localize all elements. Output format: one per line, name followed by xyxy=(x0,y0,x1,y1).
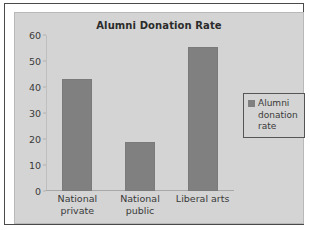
category-label-line: National xyxy=(109,193,172,205)
chart-figure-frame: Alumni Donation Rate 0102030405060 Natio… xyxy=(4,3,304,225)
bar-1 xyxy=(125,142,155,191)
y-axis-tick-label: 40 xyxy=(15,82,41,93)
category-label-line: National xyxy=(46,193,109,205)
y-axis-tick-label: 0 xyxy=(15,186,41,197)
bar-series xyxy=(46,35,234,191)
bar-0 xyxy=(62,79,92,191)
legend-label-line: Alumni xyxy=(258,98,298,110)
legend-label-line: donation xyxy=(258,110,298,122)
x-axis-category-label-1: Nationalpublic xyxy=(109,193,172,216)
y-axis-tick-label: 10 xyxy=(15,160,41,171)
category-label-line: public xyxy=(109,205,172,217)
y-axis-tick-label: 60 xyxy=(15,30,41,41)
y-axis-tick-label: 30 xyxy=(15,108,41,119)
x-axis-category-label-2: Liberal arts xyxy=(171,193,234,205)
chart-title: Alumni Donation Rate xyxy=(15,20,303,31)
x-axis-category-labels: NationalprivateNationalpublicLiberal art… xyxy=(46,193,234,227)
chart-plot-canvas: Alumni Donation Rate 0102030405060 Natio… xyxy=(14,12,304,224)
legend-swatch-alumni-donation-rate xyxy=(248,100,255,107)
category-label-line: private xyxy=(46,205,109,217)
bar-2 xyxy=(188,47,218,191)
plot-region: 0102030405060 xyxy=(46,35,234,191)
category-label-line: Liberal arts xyxy=(171,193,234,205)
chart-legend: Alumnidonationrate xyxy=(243,93,305,138)
x-axis-category-label-0: Nationalprivate xyxy=(46,193,109,216)
y-axis-tick-label: 50 xyxy=(15,56,41,67)
y-axis-tick-label: 20 xyxy=(15,134,41,145)
legend-label-line: rate xyxy=(258,121,298,133)
legend-label-alumni-donation-rate: Alumnidonationrate xyxy=(258,98,298,133)
